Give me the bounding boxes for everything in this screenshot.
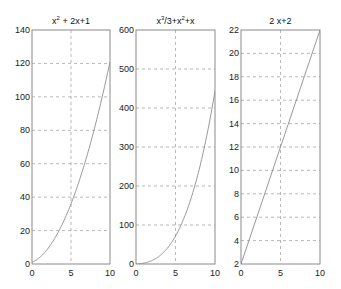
subplot-title: 2 x+2 (269, 16, 291, 26)
x-tick-label: 0 (133, 268, 138, 278)
figure: 0204060801001201400510x2 + 2x+1 01002003… (0, 0, 341, 289)
x-tick-label: 5 (68, 268, 73, 278)
y-tick-label: 22 (229, 25, 239, 35)
y-tick-label: 400 (119, 103, 134, 113)
subplot-title: x2 + 2x+1 (52, 15, 90, 26)
y-tick-label: 40 (20, 192, 30, 202)
y-tick-label: 10 (229, 165, 239, 175)
y-tick-label: 6 (234, 212, 239, 222)
subplot-1: 0204060801001201400510x2 + 2x+1 (15, 15, 115, 278)
subplot-3: 24681012141618202205102 x+2 (229, 16, 325, 278)
y-tick-label: 8 (234, 189, 239, 199)
y-tick-label: 12 (229, 142, 239, 152)
y-tick-label: 120 (15, 58, 30, 68)
x-tick-label: 5 (278, 268, 283, 278)
y-tick-label: 80 (20, 125, 30, 135)
y-tick-label: 100 (15, 92, 30, 102)
y-tick-label: 200 (119, 181, 134, 191)
y-tick-label: 16 (229, 95, 239, 105)
grid-lines (32, 30, 110, 264)
y-tick-label: 100 (119, 220, 134, 230)
x-tick-label: 5 (173, 268, 178, 278)
x-tick-label: 10 (210, 268, 220, 278)
data-curve (136, 91, 215, 264)
y-tick-label: 500 (119, 64, 134, 74)
y-tick-label: 14 (229, 119, 239, 129)
y-tick-label: 18 (229, 72, 239, 82)
grid-lines (136, 30, 215, 264)
y-tick-label: 300 (119, 142, 134, 152)
subplot-2: 01002003004005006000510x3/3+x2+x (119, 15, 220, 278)
x-tick-label: 10 (105, 268, 115, 278)
y-tick-label: 20 (20, 226, 30, 236)
y-tick-label: 4 (234, 236, 239, 246)
y-tick-label: 20 (229, 48, 239, 58)
y-tick-label: 60 (20, 159, 30, 169)
subplot-title: x3/3+x2+x (156, 15, 195, 26)
x-tick-label: 0 (238, 268, 243, 278)
x-tick-label: 10 (315, 268, 325, 278)
y-tick-label: 600 (119, 25, 134, 35)
x-tick-label: 0 (29, 268, 34, 278)
y-tick-label: 140 (15, 25, 30, 35)
